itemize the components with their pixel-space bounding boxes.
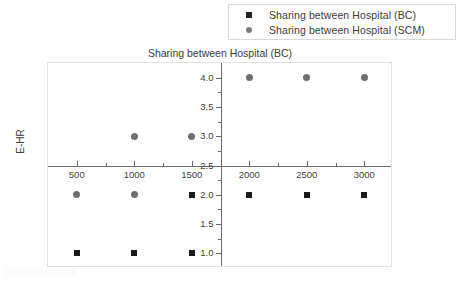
data-point-circle bbox=[303, 74, 310, 81]
y-minor-tick bbox=[218, 92, 221, 93]
y-tick-3.5 bbox=[216, 107, 221, 108]
data-point-circle bbox=[131, 133, 138, 140]
x-tick-500 bbox=[77, 161, 78, 166]
plot-inner: 500100015002000250030001.01.52.02.53.03.… bbox=[48, 63, 391, 266]
y-tick-label-1.5: 1.5 bbox=[188, 218, 214, 229]
x-tick-1000 bbox=[134, 161, 135, 166]
y-tick-2.5 bbox=[216, 166, 221, 167]
chart-title: Sharing between Hospital (BC) bbox=[47, 47, 393, 59]
x-minor-tick bbox=[221, 163, 222, 166]
legend-entry-bc: Sharing between Hospital (BC) bbox=[229, 7, 455, 23]
x-tick-label-3000: 3000 bbox=[344, 169, 384, 180]
legend-entry-scm: Sharing between Hospital (SCM) bbox=[229, 22, 455, 38]
circle-marker-icon bbox=[229, 27, 269, 33]
data-point-circle bbox=[188, 133, 195, 140]
data-point-square bbox=[361, 192, 367, 198]
data-point-square bbox=[189, 250, 195, 256]
x-tick-label-1000: 1000 bbox=[114, 169, 154, 180]
x-minor-tick bbox=[336, 163, 337, 166]
y-tick-1 bbox=[216, 253, 221, 254]
y-tick-label-4: 4.0 bbox=[188, 72, 214, 83]
y-tick-label-2.5: 2.5 bbox=[188, 160, 214, 171]
y-minor-tick bbox=[218, 122, 221, 123]
legend-label-bc: Sharing between Hospital (BC) bbox=[269, 9, 416, 21]
x-tick-label-500: 500 bbox=[57, 169, 97, 180]
data-point-square bbox=[304, 192, 310, 198]
x-tick-2500 bbox=[307, 161, 308, 166]
data-point-circle bbox=[246, 74, 253, 81]
y-axis-label: E-HR bbox=[15, 117, 26, 167]
data-point-square bbox=[131, 250, 137, 256]
y-tick-4 bbox=[216, 78, 221, 79]
data-point-circle bbox=[361, 74, 368, 81]
y-minor-tick bbox=[218, 209, 221, 210]
x-tick-label-2000: 2000 bbox=[229, 169, 269, 180]
y-minor-tick bbox=[218, 151, 221, 152]
plot-area: 500100015002000250030001.01.52.02.53.03.… bbox=[47, 62, 392, 267]
y-tick-label-3.5: 3.5 bbox=[188, 101, 214, 112]
x-tick-label-2500: 2500 bbox=[287, 169, 327, 180]
square-marker-icon bbox=[229, 12, 269, 18]
y-minor-tick bbox=[218, 180, 221, 181]
data-point-square bbox=[246, 192, 252, 198]
x-minor-tick bbox=[106, 163, 107, 166]
x-tick-2000 bbox=[249, 161, 250, 166]
x-tick-3000 bbox=[364, 161, 365, 166]
chart-legend: Sharing between Hospital (BC) Sharing be… bbox=[228, 4, 456, 40]
chart-figure: Sharing between Hospital (BC) Sharing be… bbox=[0, 0, 463, 282]
x-minor-tick bbox=[278, 163, 279, 166]
x-minor-tick bbox=[163, 163, 164, 166]
y-tick-3 bbox=[216, 136, 221, 137]
y-tick-2 bbox=[216, 195, 221, 196]
y-tick-1.5 bbox=[216, 224, 221, 225]
y-minor-tick bbox=[218, 239, 221, 240]
legend-label-scm: Sharing between Hospital (SCM) bbox=[269, 24, 425, 36]
footer-artifact bbox=[6, 268, 76, 276]
data-point-circle bbox=[73, 191, 80, 198]
data-point-square bbox=[189, 192, 195, 198]
data-point-circle bbox=[131, 191, 138, 198]
data-point-square bbox=[74, 250, 80, 256]
